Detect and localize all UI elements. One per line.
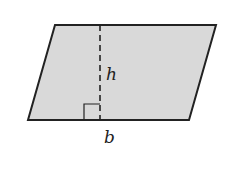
parallelogram-diagram: h b	[0, 0, 236, 171]
base-label: b	[104, 127, 115, 147]
parallelogram-shape	[28, 25, 216, 120]
height-label: h	[106, 64, 117, 84]
